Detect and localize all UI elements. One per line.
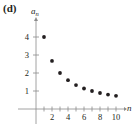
x-tick-label: 4 bbox=[66, 112, 71, 122]
data-point bbox=[106, 93, 110, 97]
y-axis-label: an bbox=[31, 6, 39, 17]
x-tick-label: 8 bbox=[98, 112, 102, 122]
x-tick-label: 10 bbox=[112, 112, 121, 122]
data-point bbox=[50, 59, 54, 63]
data-point bbox=[74, 83, 78, 87]
sequence-scatter-plot: 2468101234 an n bbox=[0, 0, 139, 133]
x-axis-label: n bbox=[127, 103, 132, 113]
data-point bbox=[90, 89, 94, 93]
y-tick-label: 3 bbox=[25, 50, 29, 60]
y-tick-label: 1 bbox=[25, 86, 29, 96]
data-points bbox=[42, 35, 118, 98]
y-tick-label: 2 bbox=[25, 68, 29, 78]
y-axis-arrow-icon bbox=[34, 17, 38, 21]
x-tick-label: 6 bbox=[82, 112, 86, 122]
data-point bbox=[66, 78, 70, 82]
y-tick-label: 4 bbox=[25, 32, 30, 42]
ticks: 2468101234 bbox=[25, 32, 121, 122]
data-point bbox=[58, 71, 62, 75]
x-tick-label: 2 bbox=[50, 112, 54, 122]
axes bbox=[18, 17, 127, 124]
data-point bbox=[82, 87, 86, 91]
data-point bbox=[98, 91, 102, 95]
data-point bbox=[114, 94, 118, 98]
data-point bbox=[42, 35, 46, 39]
